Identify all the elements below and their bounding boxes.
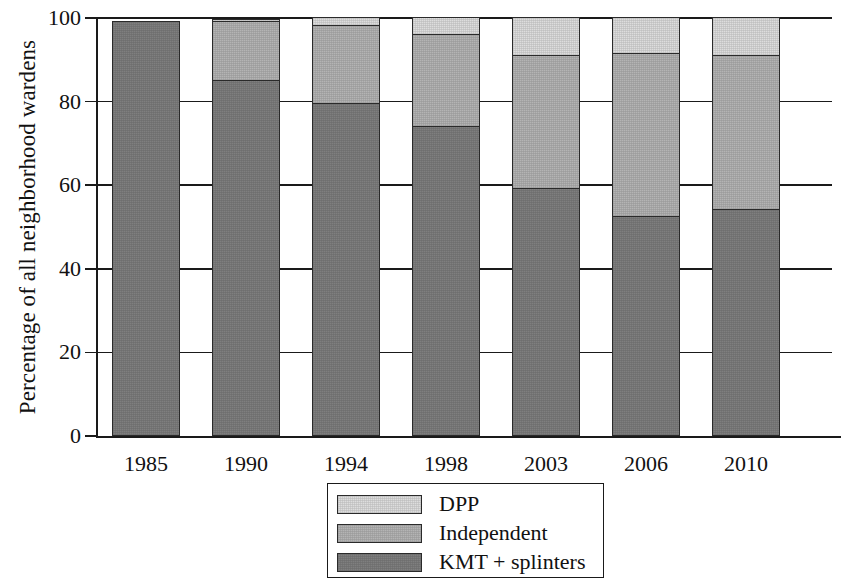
bar-segment-dpp (212, 19, 280, 22)
x-axis-line (96, 436, 841, 438)
bar-segment-dpp (312, 17, 380, 27)
y-tick-label: 40 (59, 255, 81, 283)
bar-segment-dpp (612, 17, 680, 54)
bar-segment-independent (612, 52, 680, 216)
bar-segment-kmt-splinters (312, 102, 380, 436)
bar-segment-kmt-splinters (412, 125, 480, 436)
y-tick-label: 0 (70, 422, 81, 450)
y-tick-label: 20 (59, 338, 81, 366)
bar-2010 (712, 18, 780, 436)
x-tick-label-1985: 1985 (91, 450, 201, 478)
bar-1998 (412, 18, 480, 436)
legend-swatch (337, 495, 422, 514)
x-tick-label-1994: 1994 (291, 450, 401, 478)
bar-segment-dpp (512, 17, 580, 56)
legend-item: Independent (337, 519, 603, 547)
bar-segment-independent (412, 33, 480, 126)
legend-swatch (337, 524, 422, 543)
y-tick-label: 100 (48, 4, 81, 32)
plot-area: 020406080100 (96, 18, 832, 436)
bar-segment-independent (312, 25, 380, 104)
bar-segment-independent (712, 54, 780, 210)
x-tick-label-2010: 2010 (691, 450, 801, 478)
bar-segment-kmt-splinters (212, 79, 280, 436)
x-tick-label-1998: 1998 (391, 450, 501, 478)
y-tick-mark (85, 101, 96, 103)
x-tick-label-2006: 2006 (591, 450, 701, 478)
legend-label: Independent (439, 520, 548, 546)
bar-2003 (512, 18, 580, 436)
legend-item: DPP (337, 490, 603, 518)
bar-segment-kmt-splinters (612, 215, 680, 436)
bar-segment-kmt-splinters (712, 209, 780, 436)
bar-segment-dpp (412, 17, 480, 35)
legend-swatch (337, 553, 422, 572)
stacked-bar-chart: Percentage of all neighborhood wardens 0… (0, 0, 841, 580)
bar-segment-independent (212, 21, 280, 81)
bar-segment-dpp (712, 17, 780, 56)
y-tick-mark (85, 435, 96, 437)
x-tick-label-2003: 2003 (491, 450, 601, 478)
legend-label: KMT + splinters (439, 549, 585, 575)
bar-segment-kmt-splinters (512, 188, 580, 436)
y-tick-mark (85, 268, 96, 270)
bar-segment-independent (512, 54, 580, 189)
bar-1990 (212, 20, 280, 436)
legend-label: DPP (439, 491, 479, 517)
bar-1994 (312, 18, 380, 436)
bar-2006 (612, 18, 680, 436)
y-axis-title: Percentage of all neighborhood wardens (15, 7, 41, 447)
y-tick-mark (85, 352, 96, 354)
y-tick-mark (85, 17, 96, 19)
legend-item: KMT + splinters (337, 548, 603, 576)
y-tick-mark (85, 184, 96, 186)
chart-legend: DPPIndependentKMT + splinters (327, 483, 604, 578)
bar-1985 (112, 22, 180, 436)
x-tick-label-1990: 1990 (191, 450, 301, 478)
y-axis-line (96, 18, 98, 436)
bar-segment-kmt-splinters (112, 21, 180, 436)
y-tick-label: 80 (59, 88, 81, 116)
y-tick-label: 60 (59, 171, 81, 199)
